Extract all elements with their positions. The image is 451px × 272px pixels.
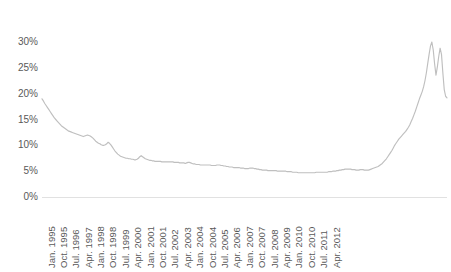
x-tick-label: Jul. 1999	[121, 229, 131, 268]
x-tick-label: Oct. 2007	[257, 227, 267, 268]
x-tick-label: Jul. 1996	[71, 229, 81, 268]
x-tick-label: Oct. 1995	[59, 227, 69, 268]
x-tick-label: Apr. 2012	[332, 227, 342, 268]
x-tick-label: Apr. 2000	[133, 227, 143, 268]
x-tick-label: Apr. 1997	[84, 227, 94, 268]
x-tick-label: Jan. 1998	[96, 226, 106, 268]
x-axis: Jan. 1995Oct. 1995Jul. 1996Apr. 1997Jan.…	[0, 0, 451, 272]
x-tick-label: Jan. 2007	[245, 226, 255, 268]
x-tick-label: Jan. 1995	[47, 226, 57, 268]
x-tick-label: Oct. 2001	[158, 227, 168, 268]
x-tick-label: Jan. 2010	[294, 226, 304, 268]
x-tick-label: Jul. 2011	[319, 230, 329, 268]
x-tick-label: Oct. 2010	[307, 227, 317, 268]
x-tick-label: Jul. 2005	[220, 229, 230, 268]
plot-area: 30%25%20%15%10%5%0% Jan. 1995Oct. 1995Ju…	[0, 0, 451, 272]
x-tick-label: Apr. 2003	[183, 227, 193, 268]
x-tick-label: Jan. 2001	[146, 226, 156, 268]
x-tick-label: Oct. 2004	[208, 227, 218, 268]
x-tick-label: Oct. 1998	[108, 227, 118, 268]
x-tick-label: Jul. 2008	[270, 229, 280, 268]
x-tick-label: Apr. 2006	[232, 227, 242, 268]
x-tick-label: Jul. 2002	[170, 229, 180, 268]
x-tick-label: Apr. 2009	[282, 227, 292, 268]
chart-container: 30%25%20%15%10%5%0% Jan. 1995Oct. 1995Ju…	[0, 0, 451, 272]
x-tick-label: Jan. 2004	[195, 226, 205, 268]
